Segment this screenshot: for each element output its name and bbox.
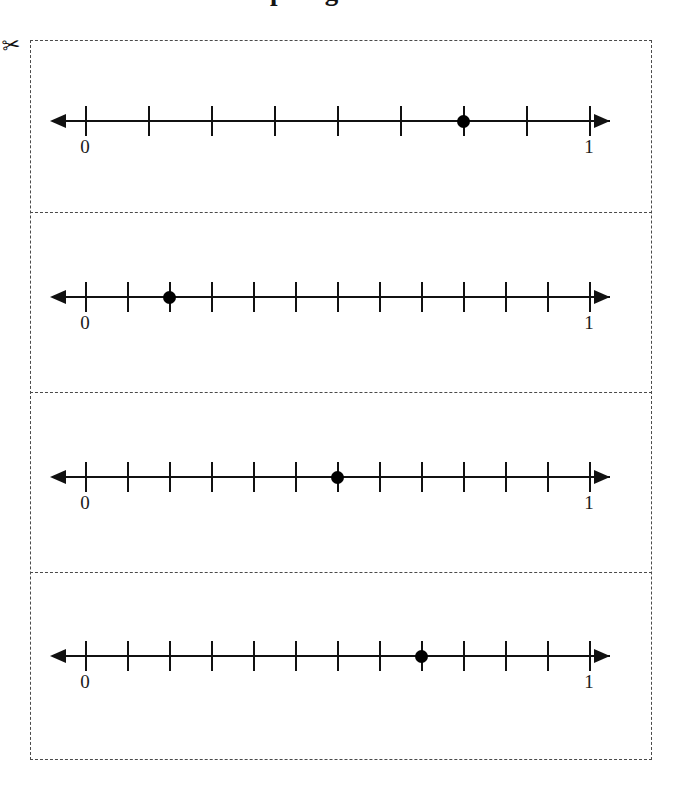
axis-label-start: 0 xyxy=(65,136,105,158)
scissors-icon: ✂ xyxy=(0,30,29,59)
tick-mark xyxy=(337,106,339,136)
tick-mark xyxy=(547,282,549,312)
tick-mark xyxy=(400,106,402,136)
tick-mark xyxy=(379,282,381,312)
tick-mark xyxy=(337,282,339,312)
tick-mark xyxy=(589,641,591,671)
axis-label-end: 1 xyxy=(569,671,609,693)
section-divider-1 xyxy=(30,212,652,213)
tick-mark xyxy=(211,462,213,492)
tick-mark xyxy=(169,462,171,492)
axis-arrow-right-icon xyxy=(594,114,610,128)
axis-label-start: 0 xyxy=(65,312,105,334)
tick-mark xyxy=(253,462,255,492)
axis-label-end: 1 xyxy=(569,136,609,158)
axis-arrow-right-icon xyxy=(594,649,610,663)
page-title-clipped: Graphing Fractions xyxy=(0,0,682,10)
tick-mark xyxy=(589,462,591,492)
tick-mark xyxy=(337,641,339,671)
section-divider-3 xyxy=(30,572,652,573)
tick-mark xyxy=(295,462,297,492)
tick-mark xyxy=(463,462,465,492)
tick-mark xyxy=(505,462,507,492)
tick-mark xyxy=(85,641,87,671)
tick-mark xyxy=(253,641,255,671)
tick-mark xyxy=(526,106,528,136)
axis-label-start: 0 xyxy=(65,492,105,514)
tick-mark xyxy=(274,106,276,136)
axis-arrow-left-icon xyxy=(50,290,66,304)
tick-mark xyxy=(421,282,423,312)
tick-mark xyxy=(505,282,507,312)
tick-mark xyxy=(85,106,87,136)
tick-mark xyxy=(211,641,213,671)
axis-arrow-right-icon xyxy=(594,470,610,484)
axis-arrow-left-icon xyxy=(50,114,66,128)
cut-along-dashed-frame xyxy=(30,40,652,760)
axis-arrow-left-icon xyxy=(50,649,66,663)
tick-mark xyxy=(589,106,591,136)
section-divider-2 xyxy=(30,392,652,393)
tick-mark xyxy=(148,106,150,136)
tick-mark xyxy=(169,641,171,671)
plotted-point[interactable] xyxy=(457,115,470,128)
tick-mark xyxy=(253,282,255,312)
axis-arrow-left-icon xyxy=(50,470,66,484)
tick-mark xyxy=(589,282,591,312)
tick-mark xyxy=(211,106,213,136)
tick-mark xyxy=(127,641,129,671)
tick-mark xyxy=(547,462,549,492)
axis-label-end: 1 xyxy=(569,492,609,514)
tick-mark xyxy=(127,462,129,492)
tick-mark xyxy=(463,282,465,312)
axis-arrow-right-icon xyxy=(594,290,610,304)
tick-mark xyxy=(295,641,297,671)
axis-label-start: 0 xyxy=(65,671,105,693)
tick-mark xyxy=(295,282,297,312)
plotted-point[interactable] xyxy=(415,650,428,663)
tick-mark xyxy=(547,641,549,671)
tick-mark xyxy=(211,282,213,312)
tick-mark xyxy=(127,282,129,312)
tick-mark xyxy=(505,641,507,671)
tick-mark xyxy=(85,282,87,312)
tick-mark xyxy=(463,641,465,671)
tick-mark xyxy=(379,641,381,671)
axis-label-end: 1 xyxy=(569,312,609,334)
tick-mark xyxy=(421,462,423,492)
plotted-point[interactable] xyxy=(331,471,344,484)
tick-mark xyxy=(85,462,87,492)
plotted-point[interactable] xyxy=(163,291,176,304)
tick-mark xyxy=(379,462,381,492)
